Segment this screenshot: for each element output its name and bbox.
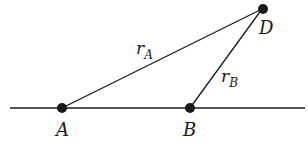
- point-d: [258, 4, 268, 14]
- point-b: [185, 103, 195, 113]
- diagram: A B D rA rB: [0, 0, 308, 150]
- point-a: [57, 103, 67, 113]
- segment-b-d-label: rB: [221, 66, 238, 90]
- segment-b-d-label-subscript: B: [228, 76, 238, 90]
- point-b-label: B: [182, 119, 196, 140]
- segment-b-d: [190, 9, 262, 108]
- segment-a-d: [62, 9, 262, 108]
- segment-a-d-label: rA: [136, 38, 153, 62]
- point-d-label: D: [258, 17, 274, 38]
- point-a-label: A: [54, 119, 69, 140]
- segment-a-d-label-subscript: A: [143, 48, 153, 62]
